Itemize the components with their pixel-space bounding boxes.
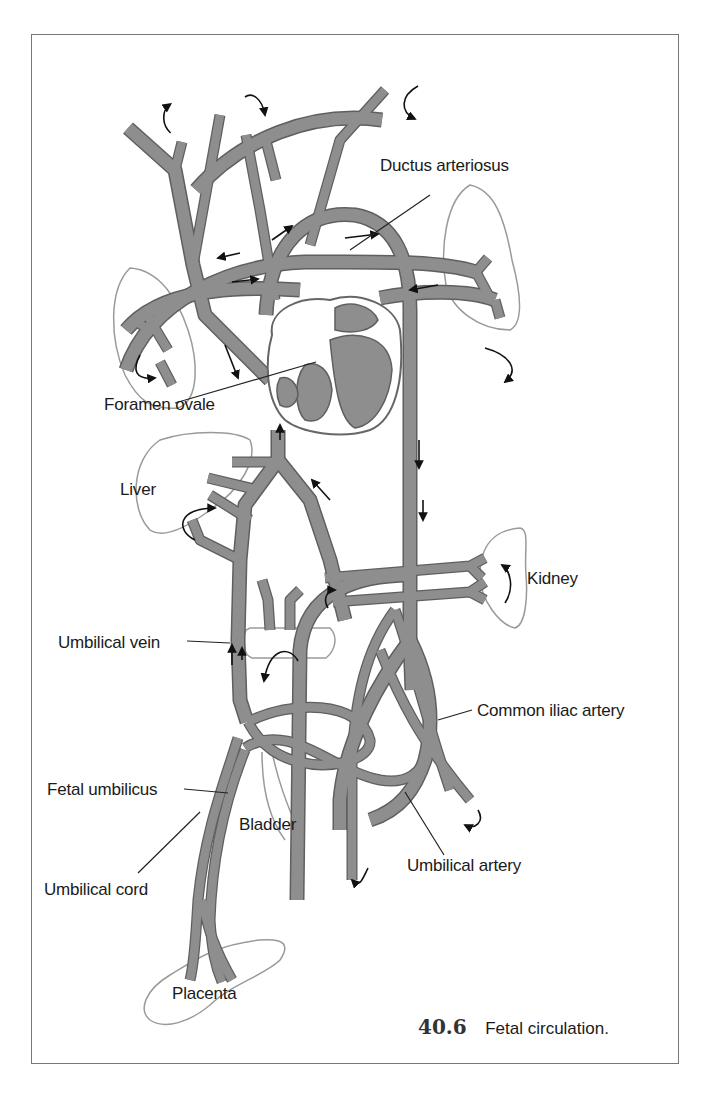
label-kidney: Kidney (527, 570, 578, 587)
label-common-iliac-artery: Common iliac artery (477, 702, 624, 719)
right-lung-outline (114, 268, 196, 408)
label-liver: Liver (120, 481, 156, 498)
intestine-outline (243, 628, 335, 658)
vessels-fill (126, 90, 500, 982)
figure-number: 40.6 (418, 1015, 467, 1039)
label-umbilical-vein: Umbilical vein (58, 634, 160, 651)
label-umbilical-cord: Umbilical cord (44, 881, 148, 898)
figure-caption: 40.6 Fetal circulation. (418, 1017, 609, 1037)
fetal-circulation-diagram (0, 0, 716, 1095)
label-fetal-umbilicus: Fetal umbilicus (47, 781, 157, 798)
kidney-outline (480, 528, 527, 628)
heart (268, 297, 401, 435)
figure-caption-text: Fetal circulation. (485, 1019, 609, 1038)
label-ductus-arteriosus: Ductus arteriosus (380, 157, 509, 174)
label-umbilical-artery: Umbilical artery (407, 857, 521, 874)
label-placenta: Placenta (172, 985, 237, 1002)
label-foramen-ovale: Foramen ovale (104, 396, 215, 413)
label-bladder: Bladder (239, 816, 296, 833)
